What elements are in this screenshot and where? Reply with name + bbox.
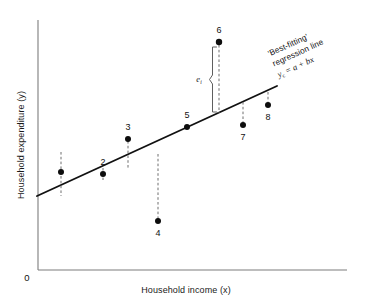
regression-scatter-figure: 2 3 4 5 6 7 8 ei 'Best-fitting' regressi… <box>0 0 366 307</box>
origin-label: 0 <box>24 272 29 283</box>
data-point-label-5: 5 <box>184 110 189 120</box>
data-point-label-3: 3 <box>125 122 130 132</box>
data-point-2[interactable] <box>100 171 106 177</box>
residual-lines-group <box>61 45 268 221</box>
point-labels-group: 2 3 4 5 6 7 8 <box>100 25 270 238</box>
residual-symbol-label: ei <box>196 74 202 85</box>
axis-group <box>38 20 347 270</box>
data-points-group <box>58 39 271 224</box>
data-point-3[interactable] <box>125 136 131 142</box>
regression-annotation-group: 'Best-fitting' regression line yc = a + … <box>266 27 331 80</box>
residual-symbol-subscript: i <box>200 79 202 85</box>
data-point-7[interactable] <box>240 122 246 128</box>
data-point-6[interactable] <box>216 39 222 45</box>
residual-brace-group <box>210 47 217 112</box>
data-point-label-2: 2 <box>100 157 105 167</box>
x-axis-title: Household income (x) <box>141 285 231 295</box>
data-point-label-7: 7 <box>240 132 245 142</box>
data-point-label-8: 8 <box>265 112 270 122</box>
data-point-label-6: 6 <box>216 25 221 35</box>
data-point-1[interactable] <box>58 169 64 175</box>
data-point-5[interactable] <box>184 124 190 130</box>
chart-canvas: 2 3 4 5 6 7 8 ei 'Best-fitting' regressi… <box>0 0 366 307</box>
residual-brace <box>210 47 217 112</box>
data-point-8[interactable] <box>265 102 271 108</box>
data-point-label-4: 4 <box>155 228 160 238</box>
data-point-4[interactable] <box>155 218 161 224</box>
y-axis-title: Household expenditure (y) <box>16 91 26 199</box>
